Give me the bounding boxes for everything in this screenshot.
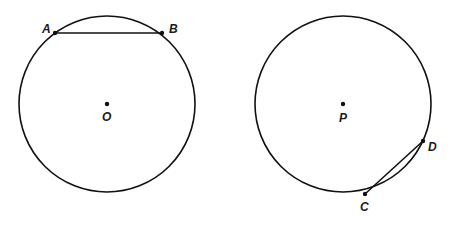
point-C-dot bbox=[363, 192, 367, 196]
label-B: B bbox=[169, 22, 178, 36]
point-A-dot bbox=[53, 31, 57, 35]
figure-circle-O: A B O bbox=[19, 16, 195, 192]
center-P-dot bbox=[341, 102, 345, 106]
chord-CD bbox=[365, 141, 423, 194]
geometry-diagram: A B O D C P bbox=[0, 0, 460, 225]
label-D: D bbox=[428, 140, 437, 154]
figure-circle-P: D C P bbox=[255, 16, 437, 214]
diagram-canvas: A B O D C P bbox=[0, 0, 460, 225]
center-O-dot bbox=[105, 102, 109, 106]
point-D-dot bbox=[421, 139, 425, 143]
label-A: A bbox=[41, 22, 51, 36]
label-P: P bbox=[339, 111, 348, 125]
label-O: O bbox=[102, 110, 112, 124]
label-C: C bbox=[360, 200, 369, 214]
point-B-dot bbox=[160, 31, 164, 35]
